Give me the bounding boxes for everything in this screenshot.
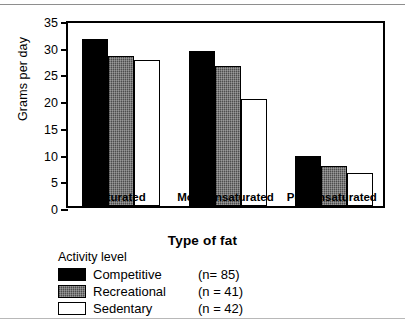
y-tick-5 [61, 182, 68, 184]
legend-rows: Competitive(n= 85)Recreational(n = 41)Se… [58, 266, 308, 317]
y-tick-15 [61, 129, 68, 131]
x-axis-title: Type of fat [0, 233, 405, 248]
x-category-label-saturated: Saturated [93, 191, 146, 203]
y-tick-label-10: 10 [44, 150, 58, 163]
y-tick-10 [61, 156, 68, 158]
bar-saturated-sedentary [134, 60, 160, 206]
plot-area: 05101520253035 [66, 21, 385, 208]
bar-group-polyunsaturated [295, 23, 373, 206]
legend-count-competitive: (n= 85) [198, 267, 240, 282]
y-axis-title: Grams per day [16, 14, 30, 144]
y-tick-label-25: 25 [44, 70, 58, 83]
y-tick-30 [61, 49, 68, 51]
legend-count-sedentary: (n = 42) [198, 301, 243, 316]
bar-chart-figure: Grams per day 05101520253035 SaturatedMo… [0, 0, 405, 326]
bar-saturated-recreational [108, 56, 134, 206]
y-tick-label-35: 35 [44, 17, 58, 30]
y-tick-0 [61, 209, 68, 211]
bar-monounsaturated-sedentary [241, 99, 267, 206]
y-tick-label-0: 0 [51, 204, 58, 217]
legend-item-sedentary: Sedentary(n = 42) [58, 300, 308, 317]
legend-swatch-sedentary [58, 302, 86, 315]
y-tick-25 [61, 75, 68, 77]
x-category-label-polyunsaturated: Polyunsaturated [287, 191, 377, 203]
legend-item-competitive: Competitive(n= 85) [58, 266, 308, 283]
y-tick-label-20: 20 [44, 97, 58, 110]
y-tick-35 [61, 22, 68, 24]
bar-monounsaturated-recreational [215, 66, 241, 206]
bar-saturated-competitive [82, 39, 108, 206]
bar-group-monounsaturated [189, 23, 267, 206]
legend-swatch-recreational [58, 285, 86, 298]
legend-count-recreational: (n = 41) [198, 284, 243, 299]
legend-title: Activity level [58, 250, 308, 264]
legend-swatch-competitive [58, 268, 86, 281]
x-category-label-monounsaturated: Monounsaturated [177, 191, 273, 203]
y-tick-20 [61, 102, 68, 104]
y-tick-label-15: 15 [44, 124, 58, 137]
legend-label-competitive: Competitive [93, 267, 198, 282]
legend-label-recreational: Recreational [93, 284, 198, 299]
bar-group-saturated [82, 23, 160, 206]
legend-item-recreational: Recreational(n = 41) [58, 283, 308, 300]
y-tick-label-30: 30 [44, 43, 58, 56]
y-tick-label-5: 5 [51, 177, 58, 190]
legend-label-sedentary: Sedentary [93, 301, 198, 316]
bar-monounsaturated-competitive [189, 51, 215, 206]
legend: Activity level Competitive(n= 85)Recreat… [58, 250, 308, 317]
